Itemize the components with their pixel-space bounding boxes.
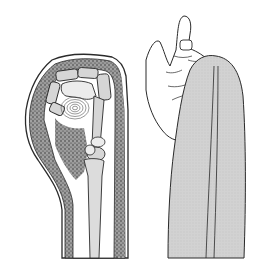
- cast-cross-section: [26, 54, 129, 258]
- carpal-bone-3: [91, 137, 105, 147]
- hand-in-cast: [146, 16, 245, 258]
- fingernail: [180, 40, 192, 50]
- anatomical-illustration: [0, 0, 259, 272]
- carpal-bone-2: [85, 145, 95, 155]
